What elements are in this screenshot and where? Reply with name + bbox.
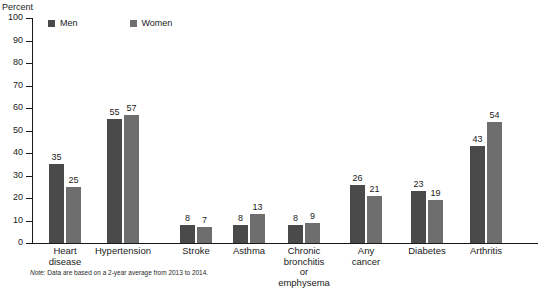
bar-group: 89Chronic bronchitis or emphysema (288, 18, 320, 243)
y-axis-line (32, 18, 33, 243)
bar-men: 8 (233, 225, 248, 243)
y-tick-mark: 60 (26, 108, 32, 109)
y-tick-label: 30 (13, 170, 23, 181)
y-tick-label: 20 (13, 192, 23, 203)
y-tick-mark: 40 (26, 153, 32, 154)
category-label: Heart disease (49, 243, 82, 267)
note-body: Data are based on a 2-year average from … (46, 269, 209, 276)
y-tick-label: 100 (8, 12, 23, 23)
bar-women: 9 (305, 223, 320, 243)
y-tick-mark: 90 (26, 41, 32, 42)
bar-men: 26 (350, 185, 365, 244)
bar-men: 55 (107, 119, 122, 243)
bar-group: 2621Any cancer (350, 18, 382, 243)
bar-value-label: 23 (413, 179, 423, 190)
bar-value-label: 9 (310, 211, 315, 222)
y-tick-label: 0 (18, 237, 23, 248)
bar-value-label: 8 (293, 213, 298, 224)
bar-value-label: 8 (238, 213, 243, 224)
y-tick-mark: 100 (26, 18, 32, 19)
bar-women: 21 (367, 196, 382, 243)
y-tick-label: 10 (13, 215, 23, 226)
y-tick-mark: 80 (26, 63, 32, 64)
bar-value-label: 8 (185, 213, 190, 224)
bar-men: 35 (49, 164, 64, 243)
bar-women: 13 (250, 214, 265, 243)
bar-value-label: 21 (369, 184, 379, 195)
plot-area: 0102030405060708090100 3525Heart disease… (32, 18, 538, 243)
y-tick-mark: 70 (26, 86, 32, 87)
bar-value-label: 57 (126, 103, 136, 114)
y-tick-label: 40 (13, 147, 23, 158)
bar-men: 23 (411, 191, 426, 243)
bar-group: 87Stroke (180, 18, 212, 243)
y-tick-mark: 30 (26, 176, 32, 177)
bar-group: 813Asthma (233, 18, 265, 243)
y-tick-label: 70 (13, 80, 23, 91)
y-tick-label: 90 (13, 35, 23, 46)
bar-women: 54 (487, 122, 502, 244)
y-tick-label: 50 (13, 125, 23, 136)
y-tick-mark: 20 (26, 198, 32, 199)
bar-value-label: 26 (352, 173, 362, 184)
bar-women: 19 (428, 200, 443, 243)
bar-value-label: 7 (202, 215, 207, 226)
bar-men: 8 (180, 225, 195, 243)
bar-value-label: 13 (252, 202, 262, 213)
bar-group: 3525Heart disease (49, 18, 81, 243)
bar-women: 7 (197, 227, 212, 243)
y-tick-mark: 10 (26, 221, 32, 222)
y-tick-label: 60 (13, 102, 23, 113)
chart-note: Note: Data are based on a 2-year average… (30, 269, 208, 277)
category-label: Any cancer (352, 243, 381, 267)
bar-value-label: 43 (472, 134, 482, 145)
category-label: Stroke (182, 243, 209, 257)
category-label: Diabetes (408, 243, 446, 257)
y-tick-mark: 0 (26, 243, 32, 244)
bar-value-label: 55 (109, 107, 119, 118)
y-tick-mark: 50 (26, 131, 32, 132)
category-label: Arthritis (470, 243, 502, 257)
bar-value-label: 19 (430, 188, 440, 199)
bar-men: 8 (288, 225, 303, 243)
bar-men: 43 (470, 146, 485, 243)
bar-women: 57 (124, 115, 139, 243)
bar-value-label: 35 (51, 152, 61, 163)
bar-value-label: 25 (68, 175, 78, 186)
category-label: Hypertension (95, 243, 151, 257)
bar-group: 2319Diabetes (411, 18, 443, 243)
bar-group: 4354Arthritis (470, 18, 502, 243)
bar-value-label: 54 (489, 110, 499, 121)
bar-women: 25 (66, 187, 81, 243)
y-tick-label: 80 (13, 57, 23, 68)
bar-group: 5557Hypertension (107, 18, 139, 243)
note-prefix: Note: (30, 269, 46, 276)
category-label: Asthma (233, 243, 265, 257)
category-label: Chronic bronchitis or emphysema (278, 243, 330, 288)
